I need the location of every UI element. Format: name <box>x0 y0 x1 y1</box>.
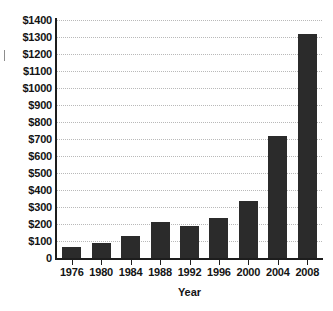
y-axis-tick-label: $800 <box>0 117 52 128</box>
bar-1992 <box>180 226 199 258</box>
x-axis-tick <box>190 260 191 265</box>
x-axis-tick <box>219 260 220 265</box>
bar-2000 <box>239 201 258 258</box>
y-axis-tick-label: $1000 <box>0 83 52 94</box>
x-axis-tick-label: 2008 <box>287 266 327 279</box>
y-axis-tick-label: $700 <box>0 134 52 145</box>
y-axis-tick-label: $600 <box>0 151 52 162</box>
x-axis-tick <box>72 260 73 265</box>
x-axis-tick <box>160 260 161 265</box>
y-axis-tick-label: 0 <box>0 253 52 264</box>
x-axis-tick-labels: 197619801984198819921996200020042008 <box>57 266 322 280</box>
y-axis-tick-label: $500 <box>0 168 52 179</box>
x-axis-tick <box>307 260 308 265</box>
bar-2004 <box>268 136 287 258</box>
bar-1988 <box>151 222 170 258</box>
x-axis-tick <box>278 260 279 265</box>
y-axis-tick-label: $1300 <box>0 32 52 43</box>
y-axis-tick-labels: 0$100$200$300$400$500$600$700$800$900$10… <box>0 0 52 311</box>
y-axis-tick-label: $1200 <box>0 49 52 60</box>
y-axis-tick-label: $200 <box>0 219 52 230</box>
bar-chart-figure: 0$100$200$300$400$500$600$700$800$900$10… <box>0 0 333 311</box>
y-axis-tick-label: $1400 <box>0 15 52 26</box>
y-axis-tick-label: $100 <box>0 236 52 247</box>
y-axis-tick-label: $300 <box>0 202 52 213</box>
y-axis-tick-label: $900 <box>0 100 52 111</box>
bar-1980 <box>92 243 111 258</box>
bar-series <box>57 20 322 258</box>
x-axis-tick <box>248 260 249 265</box>
y-axis-tick-label: $1100 <box>0 66 52 77</box>
bar-1984 <box>121 236 140 258</box>
x-axis-tick <box>101 260 102 265</box>
bar-2008 <box>298 34 317 258</box>
bar-1996 <box>209 218 228 258</box>
x-axis-tick <box>131 260 132 265</box>
bar-1976 <box>62 247 81 258</box>
x-axis-title: Year <box>57 286 322 298</box>
y-axis-tick-label: $400 <box>0 185 52 196</box>
plot-area <box>57 20 322 258</box>
